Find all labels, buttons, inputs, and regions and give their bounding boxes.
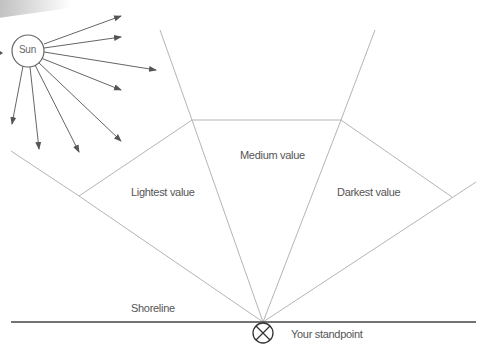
darkest-value-label: Darkest value <box>337 186 400 198</box>
reflection-diagram <box>0 0 483 352</box>
shoreline-label: Shoreline <box>131 302 175 314</box>
small-arrow-icon <box>0 51 3 55</box>
lightest-value-label: Lightest value <box>131 186 195 198</box>
standpoint-marker-icon <box>253 323 273 343</box>
sun-label: Sun <box>19 44 36 55</box>
standpoint-label: Your standpoint <box>291 328 363 340</box>
medium-value-label: Medium value <box>240 149 305 161</box>
